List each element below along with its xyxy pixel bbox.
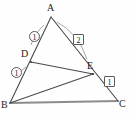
vertex-dot-E bbox=[92, 73, 94, 75]
angle-tag-1-at-d: 1 bbox=[11, 67, 22, 78]
figure-canvas bbox=[0, 0, 131, 120]
vertex-label-A: A bbox=[47, 3, 54, 13]
segment-BC bbox=[10, 101, 118, 103]
segment-DE bbox=[31, 62, 93, 74]
vertex-label-D: D bbox=[21, 49, 28, 59]
vertex-label-E: E bbox=[87, 61, 93, 71]
segment-BE bbox=[10, 74, 93, 103]
angle-tag-1-top-left: 1 bbox=[29, 31, 40, 42]
segment-AB bbox=[10, 17, 51, 103]
segment-AC bbox=[51, 17, 118, 101]
vertex-label-B: B bbox=[1, 100, 8, 110]
vertex-dot-D bbox=[30, 61, 32, 63]
geometry-figure: A B C D E 1 2 1 1 bbox=[0, 0, 131, 120]
angle-tag-1-at-e: 1 bbox=[104, 76, 115, 87]
vertex-label-C: C bbox=[119, 99, 126, 109]
angle-tag-2-top-right: 2 bbox=[73, 34, 84, 45]
